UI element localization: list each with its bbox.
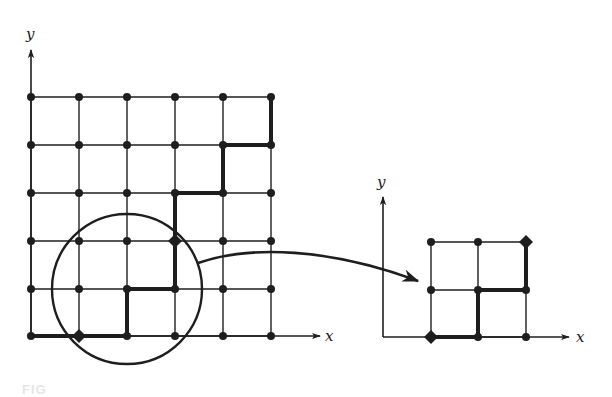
zoomed-lattice-point xyxy=(427,286,435,294)
main-lattice-point xyxy=(75,141,83,149)
main-lattice-point xyxy=(123,93,131,101)
main-x-axis-label: x xyxy=(325,327,334,345)
figure-caption-fragment: FIG xyxy=(22,382,47,397)
magnify-arrow xyxy=(198,252,418,281)
main-lattice-point xyxy=(75,189,83,197)
main-lattice-point xyxy=(219,93,227,101)
main-lattice-point xyxy=(123,189,131,197)
main-lattice-point xyxy=(267,93,275,101)
zoomed-x-axis-label: x xyxy=(576,328,585,346)
main-lattice-point xyxy=(219,285,227,293)
main-lattice-point xyxy=(75,237,83,245)
main-lattice-point xyxy=(75,93,83,101)
main-lattice-point xyxy=(123,285,131,293)
zoomed-lattice-point xyxy=(427,238,435,246)
main-lattice-point xyxy=(267,237,275,245)
main-lattice-point xyxy=(123,237,131,245)
main-lattice-point xyxy=(171,93,179,101)
main-lattice-point xyxy=(171,285,179,293)
zoomed-lattice-point xyxy=(474,238,482,246)
main-lattice-point xyxy=(171,189,179,197)
main-lattice-point xyxy=(267,285,275,293)
main-lattice-point xyxy=(267,141,275,149)
main-lattice-path xyxy=(31,97,271,336)
main-lattice-point xyxy=(219,189,227,197)
zoomed-y-axis-label: y xyxy=(376,173,386,191)
main-lattice-point xyxy=(219,237,227,245)
main-lattice-point xyxy=(219,141,227,149)
main-lattice-point xyxy=(267,189,275,197)
main-lattice-point xyxy=(171,141,179,149)
main-lattice-point xyxy=(75,285,83,293)
zoomed-lattice-point xyxy=(474,286,482,294)
main-y-axis-label: y xyxy=(25,25,35,43)
main-lattice-point xyxy=(123,141,131,149)
zoomed-lattice-point xyxy=(522,286,530,294)
zoomed-grid xyxy=(424,235,533,344)
zoomed-endpoint-diamond xyxy=(519,235,533,249)
